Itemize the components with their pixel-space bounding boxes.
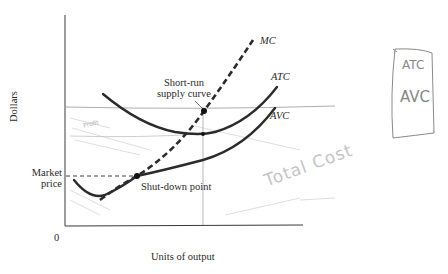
origin-label: 0 [54,232,59,243]
supply-label-pointer [195,101,203,109]
market-price-line2: price [18,178,62,189]
supply-curve-dot [201,108,207,114]
shutdown-point-dot [134,173,140,179]
short-run-supply-line1: Short-run [156,77,212,88]
x-axis-label: Units of output [151,251,215,262]
handwritten-avc: AVC [400,92,430,103]
cost-curves-diagram: Dollars Units of output 0 MC ATC AVC Sho… [0,0,448,274]
shutdown-point-label: Shut-down point [141,181,211,192]
pencil-profit-bottom [70,134,200,137]
market-price-label: Market price [18,167,62,189]
short-run-supply-label: Short-run supply curve [156,77,212,99]
y-axis-label: Dollars [8,91,19,122]
market-price-line1: Market [18,167,62,178]
avc-label: AVC [270,110,289,121]
atc-label: ATC [271,71,290,82]
mc-label: MC [260,35,276,46]
handwritten-atc: ATC [402,60,424,71]
x-axis [65,225,303,226]
short-run-supply-line2: supply curve [156,88,212,99]
atc-min-dot [201,132,205,136]
